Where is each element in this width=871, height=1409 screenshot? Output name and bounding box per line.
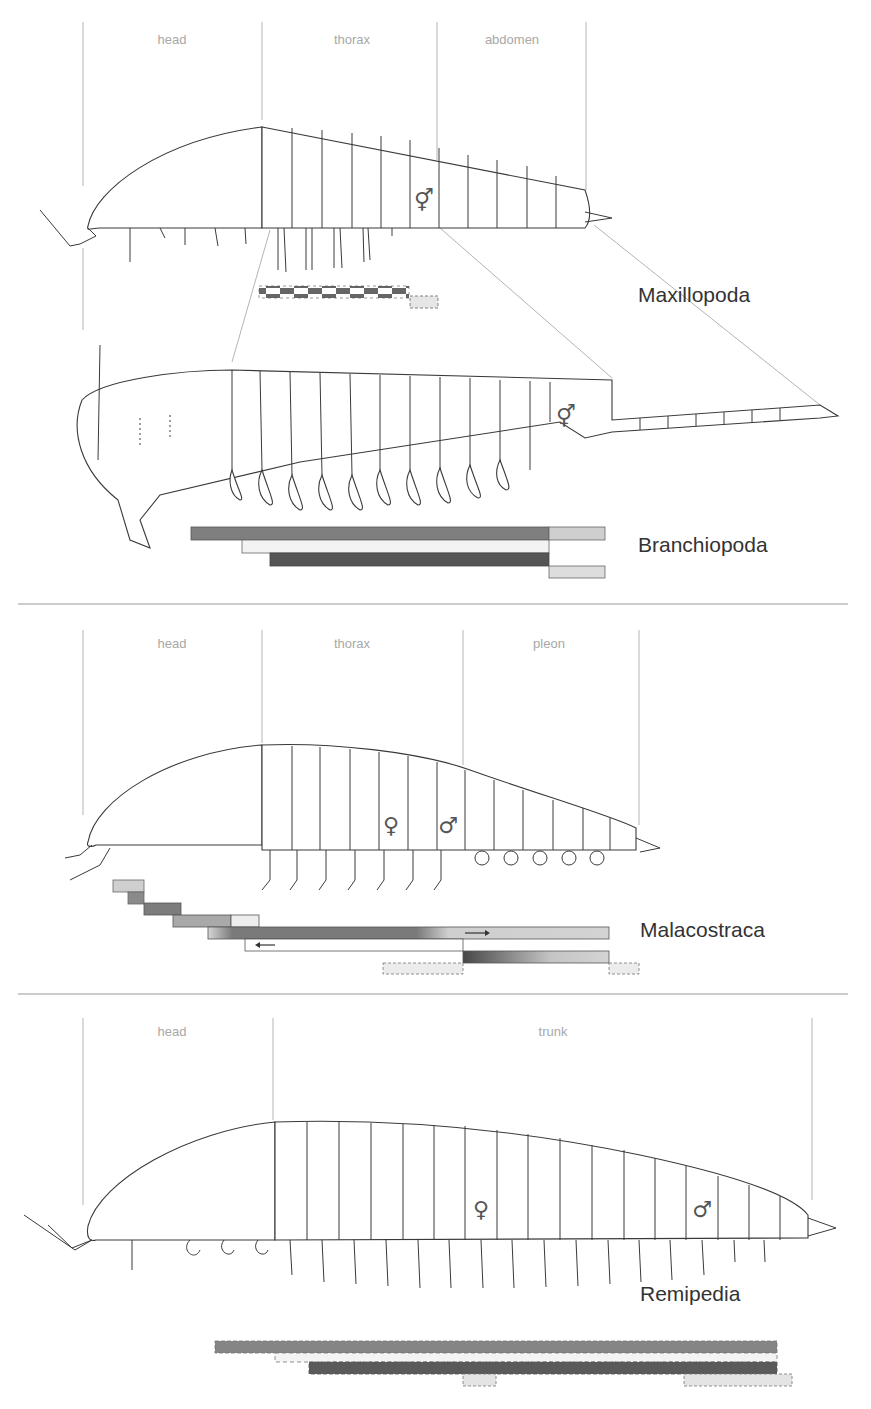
remipedia-appendages	[132, 1240, 765, 1288]
bar	[113, 880, 144, 892]
maxillopoda-bars	[259, 286, 438, 308]
bar	[231, 915, 259, 927]
panel-remipedia: head trunk ♀ ♂ Remipedia	[24, 1018, 836, 1386]
branchiopoda-bars	[191, 527, 605, 578]
male-symbol: ♂	[692, 1197, 712, 1222]
bar	[549, 527, 605, 540]
bar	[270, 553, 549, 566]
bar	[173, 915, 231, 927]
bar	[609, 963, 639, 974]
male-symbol: ♂	[438, 813, 458, 838]
taxon-label-remipedia: Remipedia	[640, 1282, 741, 1305]
panel-branchiopoda: ⚥ Branchiopoda	[77, 345, 838, 578]
remipedia-bars	[215, 1341, 792, 1386]
bar	[383, 963, 463, 974]
region-label-abdomen: abdomen	[485, 32, 539, 47]
panel-maxillopoda: head thorax abdomen ⚥ Maxillopoda	[40, 22, 820, 405]
remipedia-body-illustration	[24, 1121, 836, 1288]
taxon-label-malacostraca: Malacostraca	[640, 918, 765, 941]
crustacean-tagmosis-figure: head thorax abdomen ⚥ Maxillopoda	[0, 0, 871, 1409]
bar	[208, 927, 609, 939]
bar	[275, 1353, 777, 1362]
panel-malacostraca: head thorax pleon ♀ ♂	[65, 630, 765, 974]
bar	[463, 951, 609, 963]
bar	[684, 1374, 792, 1386]
bar	[215, 1341, 777, 1353]
female-symbol: ♀	[383, 813, 399, 838]
bar	[144, 903, 181, 915]
hermaphrodite-symbol: ⚥	[414, 187, 434, 213]
maxillopoda-body-illustration	[40, 127, 612, 272]
maxillopoda-appendages	[130, 228, 392, 272]
region-label-pleon: pleon	[533, 636, 565, 651]
hermaphrodite-symbol: ⚥	[556, 403, 576, 429]
bar	[549, 566, 605, 578]
region-label-trunk: trunk	[539, 1024, 568, 1039]
bar	[128, 892, 144, 904]
malacostraca-body-illustration	[65, 744, 660, 890]
malacostraca-bars	[113, 880, 639, 974]
region-label-head: head	[158, 1024, 187, 1039]
bar	[245, 939, 463, 951]
region-label-head: head	[158, 636, 187, 651]
bar	[463, 1374, 496, 1386]
bar	[309, 1362, 777, 1374]
bar	[242, 540, 549, 553]
female-symbol: ♀	[473, 1197, 489, 1222]
taxon-label-branchiopoda: Branchiopoda	[638, 533, 768, 556]
region-label-thorax: thorax	[334, 636, 371, 651]
region-label-head: head	[158, 32, 187, 47]
taxon-label-maxillopoda: Maxillopoda	[638, 283, 750, 306]
malacostraca-appendages	[262, 850, 604, 890]
branchiopoda-body-illustration	[77, 345, 838, 548]
bar	[191, 527, 549, 540]
region-label-thorax: thorax	[334, 32, 371, 47]
